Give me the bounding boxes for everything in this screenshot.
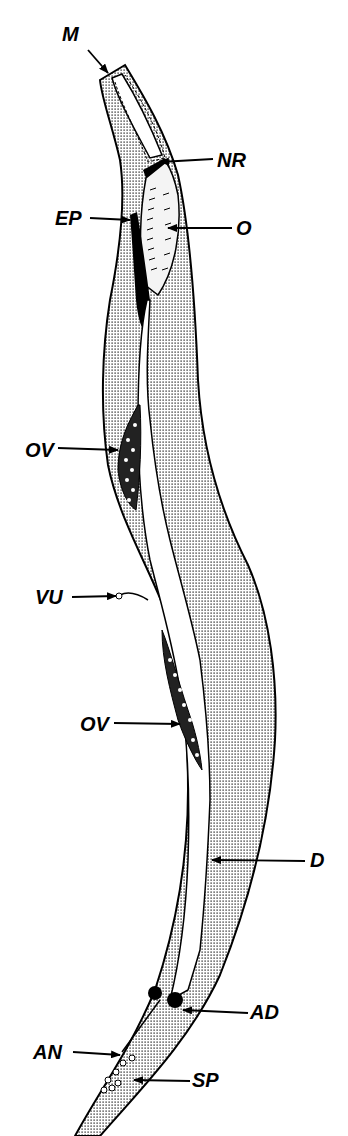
- anal-gland-left: [148, 986, 162, 1000]
- label-anal-glands: AD: [250, 1002, 279, 1022]
- arrow-SP: [134, 1080, 190, 1081]
- arrow-M: [88, 50, 108, 73]
- label-nerve-ring: NR: [217, 150, 246, 170]
- label-mouth: M: [62, 24, 79, 44]
- arrow-D: [212, 860, 305, 861]
- anal-gland-right: [167, 992, 183, 1008]
- label-intestine: D: [310, 850, 324, 870]
- nematode-diagram: [0, 0, 348, 1136]
- arrow-VU: [72, 596, 116, 597]
- vulva-tube: [120, 593, 148, 600]
- label-spicule: SP: [192, 1070, 219, 1090]
- label-ovary-anterior: OV: [25, 440, 54, 460]
- arrow-OV2: [114, 723, 180, 724]
- label-anus: AN: [33, 1042, 62, 1062]
- label-esophagus: O: [236, 218, 252, 238]
- arrow-AN: [73, 1052, 120, 1055]
- label-excretory-pore: EP: [55, 208, 82, 228]
- label-vulva: VU: [35, 587, 63, 607]
- vulva: [116, 593, 122, 599]
- label-ovary-posterior: OV: [80, 714, 109, 734]
